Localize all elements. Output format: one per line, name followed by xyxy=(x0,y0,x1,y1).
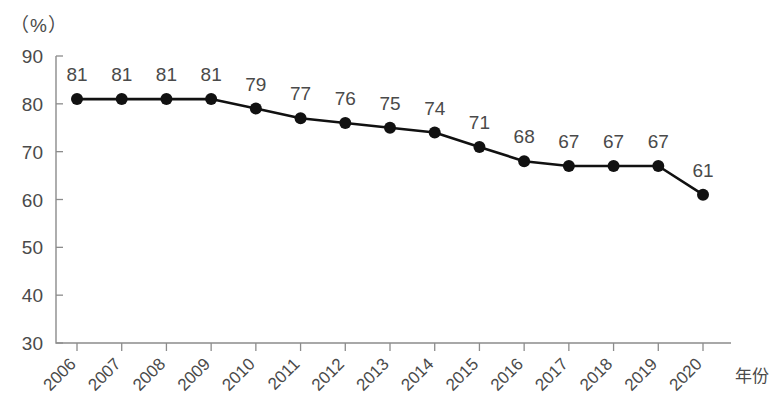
data-point-marker xyxy=(384,122,396,134)
x-axis-tick-label: 2016 xyxy=(487,354,527,394)
x-axis-tick-label: 2020 xyxy=(666,354,706,394)
y-axis-tick-label: 50 xyxy=(22,237,43,258)
x-axis-tick-label: 2010 xyxy=(219,354,259,394)
data-point-marker xyxy=(250,103,262,115)
data-point-marker xyxy=(205,93,217,105)
y-axis-tick-label: 40 xyxy=(22,285,43,306)
x-axis-tick-label: 2019 xyxy=(621,354,661,394)
data-point-marker xyxy=(160,93,172,105)
x-axis-tick-label: 2011 xyxy=(264,354,303,393)
data-point-label: 79 xyxy=(245,74,266,95)
data-point-label: 76 xyxy=(335,88,356,109)
data-point-label: 81 xyxy=(66,64,87,85)
data-point-label: 71 xyxy=(469,112,490,133)
line-chart: （%） 年份 30405060708090 818181817977767574… xyxy=(0,0,782,410)
y-axis-tick-label: 60 xyxy=(22,190,43,211)
x-axis-tick-label: 2012 xyxy=(308,354,348,394)
data-point-marker xyxy=(608,160,620,172)
x-axis-tick-label: 2013 xyxy=(353,354,393,394)
data-point-label: 67 xyxy=(603,131,624,152)
y-axis-tick-label: 90 xyxy=(22,46,43,67)
data-point-label: 68 xyxy=(514,126,535,147)
y-axis-ticks: 30405060708090 xyxy=(22,46,63,354)
x-axis-tick-label: 2008 xyxy=(129,354,169,394)
x-axis-tick-label: 2018 xyxy=(576,354,616,394)
x-axis-tick-label: 2007 xyxy=(84,354,124,394)
data-point-label: 81 xyxy=(111,64,132,85)
data-point-label: 67 xyxy=(648,131,669,152)
x-axis-tick-label: 2017 xyxy=(532,354,572,394)
x-axis-tick-label: 2006 xyxy=(40,354,80,394)
data-point-marker xyxy=(473,141,485,153)
y-axis-tick-label: 30 xyxy=(22,333,43,354)
x-axis-tick-label: 2009 xyxy=(174,354,214,394)
data-point-marker xyxy=(563,160,575,172)
data-point-marker xyxy=(71,93,83,105)
y-axis-tick-label: 80 xyxy=(22,94,43,115)
data-point-label: 67 xyxy=(558,131,579,152)
data-point-marker xyxy=(116,93,128,105)
x-axis-tick-label: 2014 xyxy=(397,354,437,394)
data-point-marker xyxy=(295,112,307,124)
data-point-label: 81 xyxy=(156,64,177,85)
data-point-marker xyxy=(339,117,351,129)
data-point-label: 75 xyxy=(379,93,400,114)
data-point-label: 61 xyxy=(692,160,713,181)
plot-area: 30405060708090 8181818179777675747168676… xyxy=(0,0,782,410)
x-axis-tick-label: 2015 xyxy=(442,354,482,394)
data-point-marker xyxy=(518,155,530,167)
data-point-label: 77 xyxy=(290,83,311,104)
x-axis-ticks xyxy=(77,343,703,351)
x-axis-tick-labels: 2006200720082009201020112012201320142015… xyxy=(40,354,706,394)
y-axis-tick-label: 70 xyxy=(22,142,43,163)
data-point-label: 81 xyxy=(201,64,222,85)
data-point-label: 74 xyxy=(424,98,446,119)
data-point-marker xyxy=(429,127,441,139)
data-point-marker xyxy=(697,189,709,201)
data-point-marker xyxy=(652,160,664,172)
